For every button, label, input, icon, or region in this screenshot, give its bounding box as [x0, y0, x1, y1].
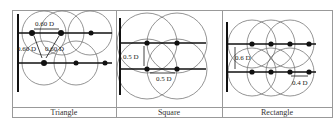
sprinkler-head	[174, 40, 179, 45]
sprinkler-head	[144, 66, 149, 71]
caption-square: Square	[158, 108, 181, 117]
square-panel: 0.5 D 0.5 D Square	[117, 13, 207, 117]
sprinkler-head	[287, 69, 292, 74]
sprinkler-head	[287, 41, 292, 46]
sprinkler-head	[268, 69, 273, 74]
spacing-label: 0.60 D	[35, 20, 54, 28]
sprinkler-head	[74, 61, 79, 66]
spacing-label: 0.5 D	[123, 53, 139, 61]
sprinkler-head	[103, 61, 108, 66]
sprinkler-head	[41, 60, 47, 66]
sprinkler-head	[306, 69, 311, 74]
spacing-label: 0.4 D	[292, 79, 308, 87]
spacing-label: 0.60 D	[45, 45, 64, 53]
spacing-label: 0.6 D	[235, 54, 251, 62]
rectangle-panel: 0.6 D 0.4 D Rectangle	[227, 20, 316, 117]
spacing-label: 0.60 D	[17, 45, 36, 53]
sprinkler-head	[174, 66, 179, 71]
triangle-panel: 0.60 D 0.60 D 0.60 D Triangle	[17, 11, 112, 117]
sprinkler-head	[58, 30, 64, 36]
sprinkler-head	[89, 31, 94, 36]
sprinkler-head	[249, 41, 254, 46]
sprinkler-head	[306, 41, 311, 46]
layout-diagram: 0.60 D 0.60 D 0.60 D Triangle 0.5 D 0.5 …	[0, 0, 336, 126]
caption-triangle: Triangle	[51, 108, 78, 117]
sprinkler-head	[268, 41, 273, 46]
caption-rectangle: Rectangle	[261, 108, 293, 117]
sprinkler-head	[249, 69, 254, 74]
sprinkler-head	[29, 30, 35, 36]
sprinkler-head	[144, 40, 149, 45]
spacing-label: 0.5 D	[156, 75, 172, 83]
